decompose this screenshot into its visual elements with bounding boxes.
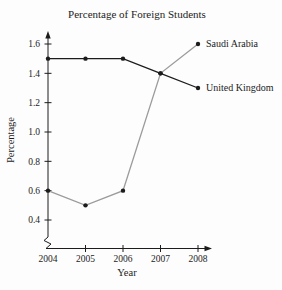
- series-line-saudi-arabia: [48, 44, 198, 205]
- x-tick-label: 2006: [114, 254, 133, 264]
- x-tick-label: 2007: [151, 254, 170, 264]
- data-point: [121, 188, 125, 192]
- x-tick-label: 2004: [39, 254, 58, 264]
- x-tick-label: 2005: [76, 254, 95, 264]
- series-end-label: United Kingdom: [206, 82, 274, 93]
- y-tick-label: 0.4: [28, 215, 40, 225]
- x-axis-label: Year: [117, 267, 137, 278]
- data-point: [158, 71, 162, 75]
- y-tick-label: 1.0: [28, 127, 40, 137]
- y-tick-label: 0.6: [28, 186, 40, 196]
- y-tick-label: 1.6: [28, 39, 40, 49]
- x-tick-label: 2008: [189, 254, 208, 264]
- y-tick-label: 0.8: [28, 157, 40, 167]
- data-point: [121, 56, 125, 60]
- data-point: [196, 86, 200, 90]
- y-axis-break-icon: [44, 237, 51, 249]
- data-point: [46, 188, 50, 192]
- x-axis-arrow-icon: [205, 246, 213, 251]
- y-tick-label: 1.2: [28, 98, 40, 108]
- chart-title: Percentage of Foreign Students: [68, 8, 206, 20]
- y-axis-arrow-icon: [45, 31, 50, 39]
- plot-area: 0.40.60.81.01.21.41.62004200520062007200…: [28, 38, 274, 264]
- data-point: [83, 203, 87, 207]
- y-tick-label: 1.4: [28, 69, 40, 79]
- series-line-united-kingdom: [48, 59, 198, 88]
- y-axis-label: Percentage: [5, 117, 16, 163]
- series-end-label: Saudi Arabia: [206, 38, 258, 49]
- chart-canvas: Percentage of Foreign Students Percentag…: [0, 0, 282, 290]
- line-chart-figure: Percentage of Foreign Students Percentag…: [0, 0, 282, 290]
- data-point: [46, 56, 50, 60]
- data-point: [196, 42, 200, 46]
- data-point: [83, 56, 87, 60]
